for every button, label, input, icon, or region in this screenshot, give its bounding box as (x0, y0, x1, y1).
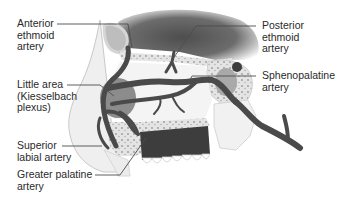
label-anterior-ethmoid-artery: Anterior ethmoid artery (17, 18, 54, 53)
cranial-cavity (118, 10, 259, 60)
label-superior-labial-artery: Superior labial artery (17, 140, 71, 163)
label-posterior-ethmoid-artery: Posterior ethmoid artery (262, 20, 304, 55)
pituitary-fossa (232, 62, 242, 72)
label-sphenopalatine-artery: Sphenopalatine artery (262, 70, 335, 93)
label-little-area: Little area (Kiesselbach plexus) (17, 79, 77, 114)
nasal-septum-diagram: Anterior ethmoid artery Little area (Kie… (0, 0, 351, 201)
nasopharynx (214, 100, 256, 150)
frontal-sinus (104, 24, 127, 52)
label-greater-palatine-artery: Greater palatine artery (17, 169, 92, 192)
